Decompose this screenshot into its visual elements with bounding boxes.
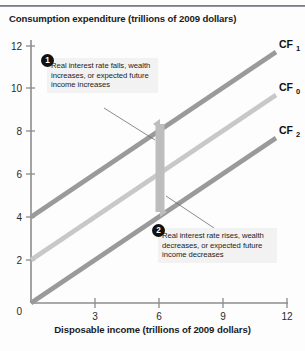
curve-label-cf1: CF 1 (279, 38, 300, 53)
y-tick-label-6: 6 (16, 169, 22, 180)
curve-label-cf2: CF 2 (279, 124, 300, 139)
svg-text:2: 2 (296, 130, 300, 139)
svg-text:0: 0 (296, 87, 300, 96)
annotation-marker-1: 1 (41, 54, 54, 67)
curve-label-cf0: CF 0 (279, 81, 300, 96)
origin-tick-label: 0 (16, 306, 22, 317)
y-tick-label-10: 10 (11, 83, 23, 94)
x-tick-label-12: 12 (281, 311, 293, 322)
y-tick-label-12: 12 (11, 41, 23, 52)
curve-cf2 (31, 138, 276, 303)
svg-text:CF: CF (279, 124, 294, 136)
y-tick-label-2: 2 (16, 255, 22, 266)
x-tick-label-3: 3 (92, 311, 98, 322)
y-tick-label-4: 4 (16, 212, 22, 223)
svg-text:1: 1 (296, 44, 300, 53)
annotation-box-2: Real interest rate rises, wealth decreas… (158, 228, 277, 263)
y-tick-label-8: 8 (16, 126, 22, 137)
svg-text:CF: CF (279, 38, 294, 50)
x-tick-label-9: 9 (220, 311, 226, 322)
plot-area: 12 10 8 6 4 2 0 3 6 9 12 CF 1 CF 0 CF 2 (0, 0, 305, 351)
annotation-marker-2: 2 (152, 224, 165, 237)
figure-container: Consumption expenditure (trillions of 20… (0, 0, 305, 351)
x-tick-label-6: 6 (156, 311, 162, 322)
svg-text:CF: CF (279, 81, 294, 93)
x-axis-title: Disposable income (trillions of 2009 dol… (0, 324, 305, 335)
leader-line-annotation-2 (166, 196, 214, 228)
leader-line-annotation-1 (104, 108, 155, 140)
annotation-box-1: Real interest rate falls, wealth increas… (47, 58, 158, 93)
